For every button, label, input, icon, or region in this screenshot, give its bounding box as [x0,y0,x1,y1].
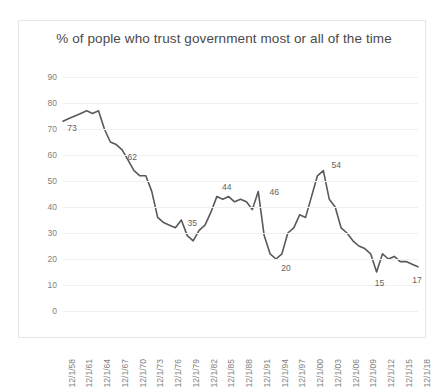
x-axis-tick-label: 12/1/06 [351,359,361,387]
gridline [63,155,418,156]
x-axis-tick-label: 12/1/85 [226,359,236,387]
x-axis-tick-label: 12/1/18 [422,359,432,387]
x-axis-tick-label: 12/1/70 [138,359,148,387]
x-axis-tick-label: 12/1/15 [404,359,414,387]
plot-area: 736235444620541517 [63,77,418,311]
y-axis-tick-label: 20 [23,254,57,264]
x-axis-tick-label: 12/1/79 [191,359,201,387]
gridline [63,207,418,208]
y-axis-tick-label: 50 [23,176,57,186]
chart-title: % of pople who trust government most or … [49,29,399,48]
x-axis-tick-label: 12/1/94 [280,359,290,387]
data-point-label: 73 [67,123,76,133]
gridline [63,233,418,234]
x-axis-tick-label: 12/1/09 [368,359,378,387]
chart-container: % of pople who trust government most or … [18,20,426,338]
gridline [63,181,418,182]
x-axis-tick-label: 12/1/67 [120,359,130,387]
x-axis-tick-label: 12/1/76 [173,359,183,387]
x-axis-tick-label: 12/1/88 [244,359,254,387]
data-point-label: 46 [270,187,279,197]
y-axis-tick-label: 40 [23,202,57,212]
data-point-label: 62 [127,152,136,162]
y-axis-tick-label: 90 [23,72,57,82]
y-axis-tick-label: 70 [23,124,57,134]
y-axis-tick-label: 30 [23,228,57,238]
data-point-label: 54 [332,160,341,170]
trust-line-series [63,77,418,311]
data-point-label: 35 [188,218,197,228]
y-axis-tick-label: 80 [23,98,57,108]
y-axis-tick-label: 60 [23,150,57,160]
gridline [63,285,418,286]
x-axis-tick-label: 12/1/61 [84,359,94,387]
x-axis-tick-label: 12/1/91 [262,359,272,387]
y-axis-tick-label: 10 [23,280,57,290]
x-axis-tick-label: 12/1/12 [386,359,396,387]
x-axis-labels: 12/1/5812/1/6112/1/6412/1/6712/1/7012/1/… [63,313,418,365]
x-axis-tick-label: 12/1/73 [155,359,165,387]
x-axis-tick-label: 12/1/82 [209,359,219,387]
data-point-label: 17 [412,275,421,285]
x-axis-tick-label: 12/1/97 [297,359,307,387]
data-point-label: 44 [222,182,231,192]
x-axis-tick-label: 12/1/58 [67,359,77,387]
gridline [63,77,418,78]
y-axis-labels: 0102030405060708090 [19,77,57,311]
data-point-label: 15 [375,278,384,288]
gridline [63,129,418,130]
data-point-label: 20 [281,263,290,273]
gridline [63,259,418,260]
y-axis-tick-label: 0 [23,306,57,316]
x-axis-tick-label: 12/1/64 [102,359,112,387]
x-axis-tick-label: 12/1/00 [315,359,325,387]
gridline [63,311,418,312]
gridline [63,103,418,104]
x-axis-tick-label: 12/1/03 [333,359,343,387]
